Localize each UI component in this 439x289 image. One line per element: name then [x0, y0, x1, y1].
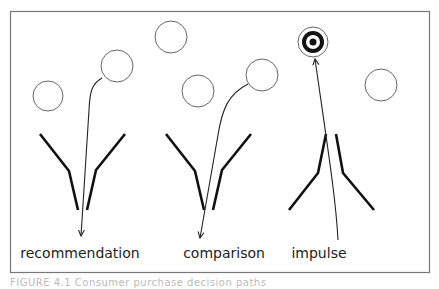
option-circle-icon [246, 59, 278, 91]
option-circle-icon [33, 81, 63, 111]
target-icon [298, 27, 328, 57]
funnel-left-wall [40, 134, 78, 210]
figure-caption: FIGURE 4.1 Consumer purchase decision pa… [10, 277, 266, 288]
label-impulse: impulse [291, 245, 346, 261]
panel-recommendation [33, 50, 133, 236]
option-circle-icon [155, 21, 187, 53]
option-circle-icon [182, 75, 214, 107]
panel-impulse [289, 27, 397, 240]
decision-path-arrow-icon [81, 78, 102, 236]
funnel-left-wall [166, 134, 204, 210]
decision-path-arrow-icon [200, 84, 248, 238]
label-comparison: comparison [183, 245, 265, 261]
funnel-left-wall [289, 134, 326, 210]
option-circle-icon [101, 50, 133, 82]
option-circle-icon [365, 69, 397, 101]
figure-frame [11, 12, 430, 273]
funnel-right-wall [213, 134, 251, 210]
funnel-right-wall [336, 134, 374, 210]
funnel-right-wall [87, 134, 125, 210]
panel-comparison [155, 21, 278, 238]
label-recommendation: recommendation [20, 245, 139, 261]
decision-path-arrow-icon [315, 59, 338, 240]
